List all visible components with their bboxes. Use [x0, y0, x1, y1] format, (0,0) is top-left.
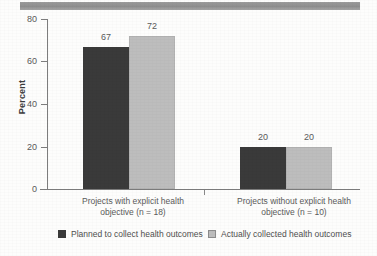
bar-planned-explicit	[83, 47, 129, 189]
bar-label-actual-no-explicit: 20	[286, 133, 332, 142]
x-category-label-explicit-line2: objective (n = 18)	[58, 207, 208, 218]
legend-item-actual: Actually collected health outcomes	[208, 229, 351, 239]
bar-planned-no-explicit	[240, 147, 286, 189]
y-tick-label-80: 80	[0, 15, 37, 24]
x-category-label-no-explicit-line2: objective (n = 10)	[215, 207, 373, 218]
x-category-label-no-explicit-line1: Projects without explicit health	[215, 196, 373, 207]
y-tick-label-0: 0	[0, 185, 37, 194]
chart-figure: 80 60 40 20 0 Percent 67 72 20 20 Projec…	[0, 0, 377, 256]
bar-label-planned-explicit: 67	[83, 33, 129, 42]
x-category-label-no-explicit: Projects without explicit health objecti…	[215, 196, 373, 218]
bar-actual-explicit	[129, 36, 175, 189]
y-axis-title: Percent	[17, 67, 27, 127]
plot-area: 67 72 20 20	[47, 19, 360, 189]
legend: Planned to collect health outcomes Actua…	[0, 227, 377, 243]
legend-item-planned: Planned to collect health outcomes	[58, 229, 203, 239]
bar-label-planned-no-explicit: 20	[240, 133, 286, 142]
legend-swatch-dark-icon	[58, 230, 66, 238]
legend-label-actual: Actually collected health outcomes	[221, 229, 351, 239]
legend-swatch-light-icon	[208, 230, 216, 238]
x-category-label-explicit: Projects with explicit health objective …	[58, 196, 208, 218]
y-tick-label-60: 60	[0, 57, 37, 66]
legend-label-planned: Planned to collect health outcomes	[71, 229, 203, 239]
x-axis-group-separator-tick	[204, 190, 205, 195]
y-tick-label-20: 20	[0, 143, 37, 152]
header-rule	[20, 2, 360, 10]
bar-label-actual-explicit: 72	[129, 22, 175, 31]
x-axis-line	[40, 189, 360, 190]
x-category-label-explicit-line1: Projects with explicit health	[58, 196, 208, 207]
bar-actual-no-explicit	[286, 147, 332, 189]
